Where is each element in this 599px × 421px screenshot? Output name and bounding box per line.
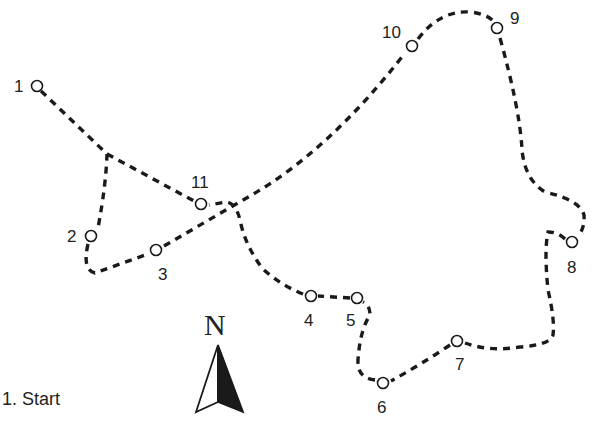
waypoint-marker-icon[interactable]	[196, 199, 207, 210]
waypoint-marker-icon[interactable]	[567, 237, 578, 248]
waypoint-marker-icon[interactable]	[86, 231, 97, 242]
route-segment-5-4	[318, 296, 350, 298]
legend: 1. Start	[2, 389, 60, 410]
waypoint-8[interactable]: 8	[567, 237, 578, 278]
route-segment-9-8	[500, 38, 584, 236]
north-compass: N	[196, 308, 243, 412]
waypoint-marker-icon[interactable]	[306, 291, 317, 302]
north-arrow-icon	[196, 345, 243, 412]
waypoint-label: 10	[382, 23, 401, 42]
waypoint-marker-icon[interactable]	[492, 23, 503, 34]
waypoint-3[interactable]: 3	[151, 245, 168, 285]
route-segment-6-5	[358, 302, 375, 380]
waypoint-label: 1	[14, 77, 23, 96]
waypoint-marker-icon[interactable]	[151, 245, 162, 256]
waypoint-1[interactable]: 1	[14, 77, 43, 96]
waypoint-11[interactable]: 11	[191, 173, 209, 210]
route-map: 1 2 3 4 5 6 7 8 9 10 11 N	[0, 0, 599, 421]
waypoint-label: 3	[158, 265, 167, 284]
waypoint-label: 8	[567, 258, 576, 277]
waypoint-7[interactable]: 7	[452, 336, 465, 375]
route-segment-10-9	[418, 12, 494, 39]
waypoint-marker-icon[interactable]	[352, 293, 363, 304]
waypoint-label: 5	[346, 311, 355, 330]
legend-item-start: 1. Start	[2, 389, 60, 410]
route-segment-1-2	[41, 91, 107, 228]
waypoint-marker-icon[interactable]	[407, 41, 418, 52]
north-label: N	[204, 308, 226, 341]
route-segment-junction-11	[107, 154, 194, 201]
waypoint-9[interactable]: 9	[492, 9, 520, 34]
route-segment-3-10	[164, 53, 405, 246]
waypoint-label: 2	[67, 227, 76, 246]
route-segment-7-6	[391, 345, 450, 381]
waypoint-label: 11	[191, 173, 209, 192]
waypoint-marker-icon[interactable]	[378, 378, 389, 389]
waypoint-label: 9	[510, 9, 519, 28]
waypoint-label: 7	[455, 355, 464, 374]
waypoint-6[interactable]: 6	[377, 378, 389, 418]
waypoint-marker-icon[interactable]	[32, 81, 43, 92]
waypoint-2[interactable]: 2	[67, 227, 97, 246]
waypoint-label: 4	[304, 311, 313, 330]
route-segment-4-11	[209, 202, 303, 294]
route-segment-8-7	[465, 232, 565, 349]
route-segment-2-3	[86, 244, 148, 273]
waypoint-4[interactable]: 4	[304, 291, 317, 331]
waypoint-label: 6	[377, 398, 386, 417]
waypoint-10[interactable]: 10	[382, 23, 418, 52]
waypoint-marker-icon[interactable]	[452, 336, 463, 347]
